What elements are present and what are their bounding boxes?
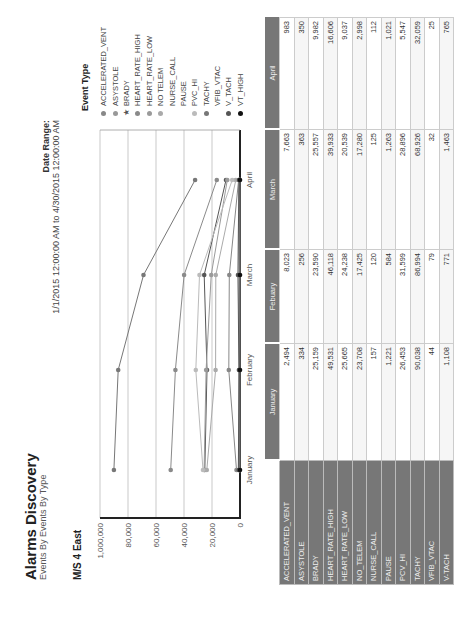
table-cell: 334 [294,344,309,461]
table-row: NO_TELEM23,70817,42517,2802,998 [352,18,367,585]
legend-item: ★BRADY [121,27,132,116]
data-point [116,368,121,373]
column-header: March [265,130,280,250]
legend-dot-marker-icon [147,111,152,116]
legend-label: TACHY [202,81,211,106]
legend-label: PVC_HI [190,79,199,106]
legend-label: VFIB_VTAC [213,66,222,106]
legend-item: NO TELEM [155,27,166,116]
legend-label: HEART_RATE_HIGH [133,34,142,106]
table-cell: 17,280 [352,130,367,250]
table-cell: 25 [425,18,440,130]
legend-dot-marker-icon [192,111,197,116]
legend-dot-marker-icon [204,111,209,116]
data-point [225,178,230,183]
legend-item: NURSE_CALL [166,27,177,116]
x-tick-label: April [245,172,254,188]
table-row: TACHY90,03886,99468,92632,059 [410,18,425,585]
table-cell: 20,539 [338,130,353,250]
table-cell: 25,159 [309,344,324,461]
legend-item: PAUSE [178,27,189,116]
data-point [197,273,202,278]
legend-item: HEART_RATE_LOW [144,27,155,116]
table-cell: 79 [425,250,440,344]
table-cell: 24,238 [338,250,353,344]
table-cell: 31,599 [396,250,411,344]
series-line [238,180,239,470]
y-tick-label: 20,000 [208,522,217,547]
series-line [114,180,195,470]
legend-item: PVC_HI [189,27,200,116]
table-row: V-TACH1,1087711,463765 [439,18,454,585]
x-tick-label: March [245,264,254,286]
table-cell: 26,453 [396,344,411,461]
table-cell: 5,547 [396,18,411,130]
table-row: NURSE_CALL157120125112 [367,18,382,585]
data-point [227,368,232,373]
table-cell: 9,982 [309,18,324,130]
table-cell: 771 [439,250,454,344]
data-point [238,368,243,373]
legend-dot-marker-icon [101,111,106,116]
table-row: BRADY25,15923,59025,5579,982 [309,18,324,585]
table-row: PAUSE1,2215841,2631,021 [381,18,396,585]
table-row: VFIB_VTAC44793225 [425,18,440,585]
x-tick-label: January [245,456,254,484]
data-point [202,273,207,278]
table-cell: 2,494 [280,344,295,461]
table-cell: 256 [294,250,309,344]
row-label: NURSE_CALL [367,461,382,585]
legend-label: NO TELEM [156,68,165,106]
data-point [204,368,209,373]
table-cell: 16,606 [323,18,338,130]
data-point [209,273,214,278]
legend-label: ACCELERATED_VENT [99,27,108,106]
series-line [171,180,217,470]
row-label: NO_TELEM [352,461,367,585]
y-tick-label: 0 [236,522,245,527]
legend-dot-marker-icon [135,111,140,116]
row-label: V-TACH [439,461,454,585]
legend-item: ACCELERATED_VENT [98,27,109,116]
chart-legend: ACCELERATED_VENTASYSTOLE★BRADYHEART_RATE… [98,27,246,116]
data-point [230,178,235,183]
data-point [213,368,218,373]
table-cell: 1,463 [439,130,454,250]
row-label: BRADY [309,461,324,585]
legend-title: Event Type [80,64,90,111]
table-cell: 8,023 [280,250,295,344]
table-cell: 25,665 [338,344,353,461]
table-cell: 1,221 [381,344,396,461]
table-cell: 765 [439,18,454,130]
table-cell: 68,926 [410,130,425,250]
legend-item: TACHY [201,27,212,116]
legend-blank-marker [215,111,220,116]
table-row: PCV_HI26,45331,59928,8965,547 [396,18,411,585]
data-point [238,468,243,473]
table-cell: 17,425 [352,250,367,344]
legend-dot-marker-icon [238,111,243,116]
data-point [201,468,206,473]
data-point [141,273,146,278]
y-tick-label: 40,000 [180,522,189,547]
column-header: Febuary [265,250,280,344]
table-cell: 32 [425,130,440,250]
table-cell: 112 [367,18,382,130]
row-label: HEART_RATE_LOW [338,461,353,585]
table-cell: 1,108 [439,344,454,461]
legend-dot-marker-icon [158,111,163,116]
y-tick-label: 60,000 [152,522,161,547]
column-header: April [265,18,280,130]
legend-label: ASYSTOLE [111,67,120,106]
table-cell: 2,998 [352,18,367,130]
row-label: ACCELERATED_VENT [280,461,295,585]
table-cell: 25,557 [309,130,324,250]
row-label: VFIB_VTAC [425,461,440,585]
column-header: January [265,344,280,461]
x-tick-label: February [245,354,254,386]
legend-label: BRADY [122,80,131,106]
legend-label: V_TACH [224,77,233,106]
legend-blank-marker [170,111,175,116]
legend-label: PAUSE [179,81,188,106]
series-line [207,180,236,470]
